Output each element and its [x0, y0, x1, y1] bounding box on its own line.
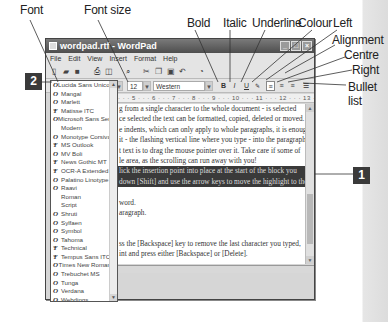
font-list-item[interactable]: OMV Boli	[51, 150, 111, 159]
document-scrollbar[interactable]: ▲ ▼	[305, 104, 314, 264]
status-bar	[118, 265, 314, 273]
opentype-font-icon: O	[53, 150, 61, 159]
label-left: Left	[333, 16, 352, 30]
opentype-font-icon: O	[53, 219, 61, 228]
standard-toolbar: ▯ ▰ ■ ⎙ ◫ ⌕ ✂ ❐ ▣ ↶ ◔	[46, 64, 314, 79]
underline-button[interactable]: U	[242, 81, 251, 91]
doc-line: e indents, which can only apply to whole…	[118, 125, 305, 135]
truetype-font-icon: Ŧ	[53, 244, 61, 253]
font-list-item[interactable]: OTimes New Roman	[51, 261, 111, 270]
italic-button[interactable]: I	[230, 81, 239, 91]
colour-button[interactable]: ✎	[253, 81, 262, 91]
align-center-button[interactable]: ≡	[277, 81, 286, 91]
font-list-item[interactable]: ŦTempus Sans ITC	[51, 253, 111, 262]
font-list-item[interactable]: OVerdana	[51, 287, 111, 296]
font-list-item[interactable]: OTunga	[51, 279, 111, 288]
opentype-font-icon: O	[53, 279, 61, 288]
open-icon[interactable]: ▰	[61, 67, 70, 76]
font-list-item[interactable]: OMicrosoft Sans Serif	[51, 115, 111, 124]
font-list-item[interactable]: ŦMatisse ITC	[51, 107, 111, 116]
align-left-button[interactable]: ≡	[266, 81, 275, 91]
font-list-item[interactable]: Script	[51, 201, 111, 210]
scroll-up-icon[interactable]: ▲	[110, 81, 117, 88]
new-icon[interactable]: ▯	[49, 67, 58, 76]
label-bold: Bold	[187, 16, 210, 30]
doc-line: int and press either [Backspace] or [Del…	[118, 249, 305, 259]
opentype-font-icon: O	[53, 287, 61, 296]
script-select[interactable]: Western	[153, 81, 205, 91]
ruler[interactable]: · · · 5 · · · 6 · · · 7 · · · 8 · · · 9 …	[118, 94, 314, 103]
doc-line	[118, 187, 305, 197]
font-list-item[interactable]: ŦTechnical	[51, 244, 111, 253]
paste-icon[interactable]: ▣	[166, 67, 175, 76]
font-name: Tempus Sans ITC	[61, 253, 110, 262]
opentype-font-icon: O	[53, 90, 61, 99]
font-name: Modern	[61, 124, 82, 133]
align-right-button[interactable]: ≡	[288, 81, 297, 91]
undo-icon[interactable]: ↶	[178, 67, 187, 76]
font-list-item[interactable]: Modern	[51, 124, 111, 133]
font-size-select[interactable]: 12	[127, 81, 143, 91]
font-name: Roman	[61, 193, 81, 202]
copy-icon[interactable]: ❐	[154, 67, 163, 76]
font-list-item[interactable]: ŦOCR-A Extended	[51, 167, 111, 176]
font-list-item[interactable]: OWebdings	[51, 296, 111, 302]
font-list-item[interactable]: OPalatino Linotype	[51, 176, 111, 185]
label-italic: Italic	[223, 16, 246, 30]
scroll-up-icon[interactable]: ▲	[306, 104, 314, 112]
font-dropdown-list[interactable]: OLucida Sans UnicodeOMangalOMarlettŦMati…	[50, 80, 118, 302]
font-list-item[interactable]: OMonotype Corsiva	[51, 133, 111, 142]
scroll-down-icon[interactable]: ▼	[306, 256, 314, 264]
print-icon[interactable]: ⎙	[92, 67, 101, 76]
font-list-item[interactable]: ŦMS Outlook	[51, 141, 111, 150]
cut-icon[interactable]: ✂	[142, 67, 151, 76]
doc-line-highlighted: down [Shift] and use the arrow keys to m…	[118, 177, 305, 187]
menu-view[interactable]: View	[87, 53, 102, 64]
font-list-item[interactable]: OMangal	[51, 90, 111, 99]
minimize-button[interactable]: _	[280, 41, 290, 51]
document-area[interactable]: g from a single character to the whole d…	[118, 104, 305, 264]
close-button[interactable]: ×	[302, 41, 312, 51]
menu-file[interactable]: File	[50, 53, 61, 64]
truetype-font-icon: Ŧ	[53, 107, 61, 116]
font-list-item[interactable]: Roman	[51, 193, 111, 202]
size-dropdown-arrow[interactable]: ▼	[143, 81, 151, 91]
menu-insert[interactable]: Insert	[109, 53, 127, 64]
font-list-item[interactable]: OSylfaen	[51, 219, 111, 228]
truetype-font-icon: Ŧ	[53, 253, 61, 262]
script-dropdown-arrow[interactable]: ▼	[205, 81, 213, 91]
font-list-item[interactable]: OLucida Sans Unicode	[51, 81, 111, 90]
callout-badge-1: 1	[353, 167, 370, 184]
doc-line	[118, 229, 305, 239]
scroll-thumb[interactable]	[307, 194, 313, 244]
maximize-button[interactable]: □	[291, 41, 301, 51]
find-icon[interactable]: ⌕	[123, 67, 132, 76]
font-list-item[interactable]: ORaavi	[51, 184, 111, 193]
opentype-font-icon: O	[53, 270, 61, 279]
font-list-item[interactable]: OTrebuchet MS	[51, 270, 111, 279]
font-name: Script	[61, 201, 77, 210]
title-bar[interactable]: wordpad.rtf - WordPad _ □ ×	[46, 39, 314, 53]
label-underline: Underline	[252, 16, 302, 30]
bullets-button[interactable]: ☰	[301, 81, 310, 91]
font-name: Tahoma	[61, 236, 83, 245]
font-list-item[interactable]: OSymbol	[51, 227, 111, 236]
font-name: Palatino Linotype	[61, 176, 108, 185]
font-name: Microsoft Sans Serif	[58, 115, 113, 124]
menu-edit[interactable]: Edit	[68, 53, 80, 64]
menu-format[interactable]: Format	[134, 53, 156, 64]
insert-datetime-icon[interactable]: ◔	[197, 67, 206, 76]
bold-button[interactable]: B	[219, 81, 228, 91]
font-list-scrollbar[interactable]: ▲ ▼	[109, 81, 117, 301]
save-icon[interactable]: ■	[73, 67, 82, 76]
font-list-item[interactable]: ŦNews Gothic MT	[51, 158, 111, 167]
font-name: Symbol	[61, 227, 82, 236]
print-preview-icon[interactable]: ◫	[104, 67, 113, 76]
scroll-down-icon[interactable]: ▼	[110, 294, 117, 301]
font-list-item[interactable]: OMarlett	[51, 98, 111, 107]
font-name: Marlett	[61, 98, 80, 107]
font-list-item[interactable]: OShruti	[51, 210, 111, 219]
doc-line: it - the flashing vertical line where yo…	[118, 135, 305, 145]
menu-help[interactable]: Help	[163, 53, 177, 64]
font-list-item[interactable]: OTahoma	[51, 236, 111, 245]
